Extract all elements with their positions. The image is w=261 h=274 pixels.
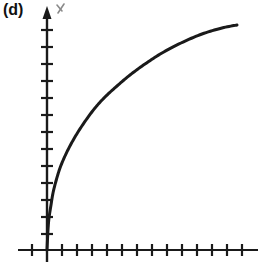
figure-panel: (d) [0, 0, 261, 274]
y-axis-arrow-icon [43, 6, 52, 19]
y-axis-label-mark [57, 4, 64, 13]
data-curve [47, 25, 237, 250]
plot-area [0, 0, 261, 274]
